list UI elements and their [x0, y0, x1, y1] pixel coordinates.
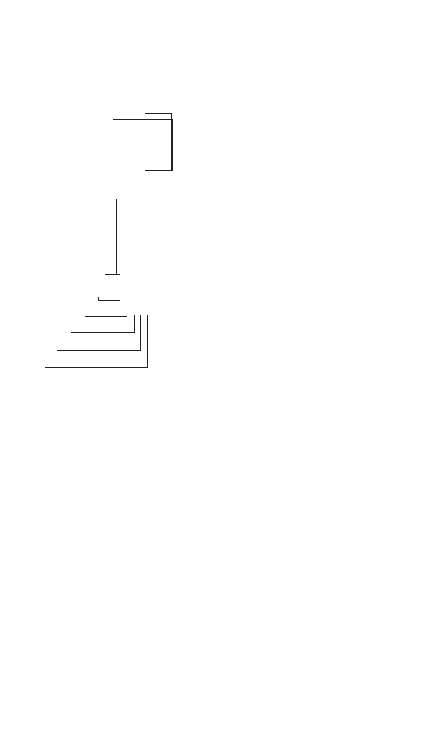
leader-melting-point-tip — [98, 297, 99, 301]
leader-high-pressure — [105, 274, 120, 275]
lasers-bracket — [145, 113, 172, 171]
leader-ordinary-lamp — [45, 367, 148, 368]
leader-hp-bottom — [172, 119, 173, 171]
leader-melting-point — [98, 300, 120, 301]
leader-projection-lamp — [71, 332, 134, 333]
leader-projection-lamp-h — [134, 315, 135, 333]
luminance-ranges-figure — [0, 0, 433, 751]
leader-3000k-h — [140, 315, 141, 351]
leader-3500k — [85, 316, 127, 317]
leader-ordinary-lamp-h — [147, 315, 148, 368]
leader-high-pressure-h — [116, 199, 117, 275]
leader-3000k — [57, 350, 140, 351]
